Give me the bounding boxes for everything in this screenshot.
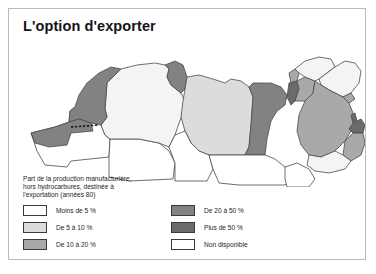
legend-item-10-a-20[interactable]: De 10 à 20 % xyxy=(23,236,171,253)
legend-swatch-non-disponible xyxy=(171,239,195,250)
legend-item-non-disponible[interactable]: Non disponible xyxy=(171,236,319,253)
legend-label-non-disponible: Non disponible xyxy=(204,241,248,248)
figure-panel: L'option d'exporter xyxy=(8,8,366,260)
legend-item-moins-de-5[interactable]: Moins de 5 % xyxy=(23,202,171,219)
legend-item-5-a-10[interactable]: De 5 à 10 % xyxy=(23,219,171,236)
legend-label-10-a-20: De 10 à 20 % xyxy=(56,241,96,248)
legend-item-plus-de-50[interactable]: Plus de 50 % xyxy=(171,219,319,236)
legend-swatch-10-a-20 xyxy=(23,239,47,250)
legend-swatch-20-a-50 xyxy=(171,205,195,216)
region-egypte[interactable] xyxy=(245,83,287,155)
legend-label-20-a-50: De 20 à 50 % xyxy=(204,207,244,214)
legend-label-5-a-10: De 5 à 10 % xyxy=(56,224,92,231)
map-container xyxy=(9,39,365,187)
legend-swatch-moins-de-5 xyxy=(23,205,47,216)
region-israel[interactable] xyxy=(287,81,299,105)
legend: Part de la production manufacturière, ho… xyxy=(23,175,353,253)
legend-swatch-5-a-10 xyxy=(23,222,47,233)
legend-caption: Part de la production manufacturière, ho… xyxy=(23,175,353,199)
legend-column-right: De 20 à 50 % Plus de 50 % Non disponible xyxy=(171,202,319,253)
legend-label-plus-de-50: Plus de 50 % xyxy=(204,224,243,231)
legend-column-left: Moins de 5 % De 5 à 10 % De 10 à 20 % xyxy=(23,202,171,253)
page-title: L'option d'exporter xyxy=(23,18,156,34)
legend-item-20-a-50[interactable]: De 20 à 50 % xyxy=(171,202,319,219)
choropleth-map xyxy=(9,39,365,187)
legend-swatch-plus-de-50 xyxy=(171,222,195,233)
region-libye[interactable] xyxy=(181,75,253,155)
legend-label-moins-de-5: Moins de 5 % xyxy=(56,207,96,214)
